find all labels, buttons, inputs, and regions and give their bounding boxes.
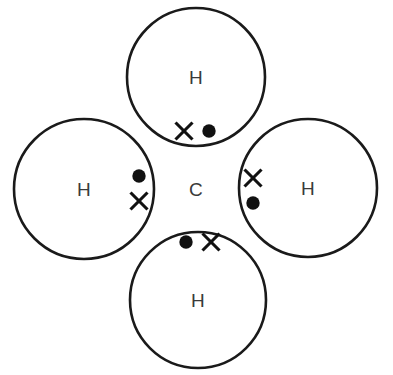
bond-top-electron-dot (202, 124, 215, 137)
bond-bottom-electron-dot (179, 235, 192, 248)
bond-left-electron-dot (132, 169, 145, 182)
hydrogen-right-label: H (301, 178, 315, 199)
hydrogen-top-label: H (189, 67, 203, 88)
bond-right-electron-dot (246, 196, 259, 209)
carbon-label: C (189, 179, 203, 200)
molecule-svg: H H H H C (0, 0, 393, 375)
hydrogen-left-label: H (77, 179, 91, 200)
methane-dot-cross-diagram: H H H H C (0, 0, 393, 375)
hydrogen-bottom-label: H (191, 290, 205, 311)
